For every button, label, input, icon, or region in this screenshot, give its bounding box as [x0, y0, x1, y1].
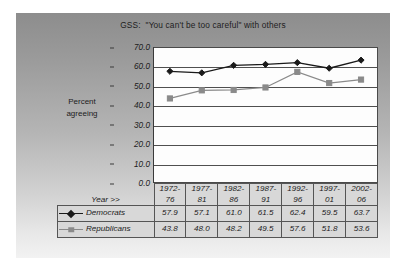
- year-row-label: Year >>: [58, 184, 155, 206]
- data-point-marker: [358, 57, 364, 63]
- table-column-header: 1972- 76: [154, 184, 186, 206]
- data-point-marker: [231, 87, 236, 92]
- table-column-header: 1997- 01: [314, 184, 346, 206]
- data-table-wrapper: Year >>1972- 761977- 811982- 861987- 911…: [57, 183, 378, 238]
- data-point-marker: [326, 65, 332, 71]
- y-axis-tick-label: 50.0: [114, 81, 150, 90]
- data-point-marker: [199, 88, 204, 93]
- y-axis-tick-mark: [110, 164, 114, 165]
- data-point-marker: [231, 62, 237, 68]
- y-axis-tick-mark: [110, 144, 114, 145]
- table-cell-value: 48.0: [186, 222, 218, 238]
- y-axis-tick-label: 30.0: [114, 120, 150, 129]
- table-cell-value: 59.5: [314, 206, 346, 222]
- y-axis-tick-label: 40.0: [114, 101, 150, 110]
- data-point-marker: [358, 77, 363, 82]
- table-cell-value: 61.5: [250, 206, 282, 222]
- data-point-marker: [263, 85, 268, 90]
- data-point-marker: [199, 70, 205, 76]
- table-column-header: 1982- 86: [218, 184, 250, 206]
- table-cell-value: 57.1: [186, 206, 218, 222]
- data-point-marker: [167, 68, 173, 74]
- table-column-header: 2002- 06: [346, 184, 378, 206]
- legend-item-democrats[interactable]: Democrats: [58, 206, 155, 222]
- data-table: Year >>1972- 761977- 811982- 861987- 911…: [57, 183, 378, 238]
- data-point-marker: [295, 69, 300, 74]
- legend-label: Democrats: [84, 208, 125, 219]
- table-column-header: 1977- 81: [186, 184, 218, 206]
- table-cell-value: 63.7: [346, 206, 378, 222]
- y-axis-tick-label: 60.0: [114, 62, 150, 71]
- data-point-marker: [167, 96, 172, 101]
- series-lines: [154, 48, 377, 183]
- diamond-marker-icon: [58, 209, 84, 219]
- data-point-marker: [262, 61, 268, 67]
- legend-item-republicans[interactable]: Republicans: [58, 222, 155, 238]
- table-cell-value: 57.9: [154, 206, 186, 222]
- chart-screenshot: GSS: "You can't be too careful" with oth…: [0, 0, 403, 273]
- plot-wrapper: [153, 47, 378, 183]
- table-cell-value: 51.8: [314, 222, 346, 238]
- table-column-header: 1992- 96: [282, 184, 314, 206]
- table-column-header: 1987- 91: [250, 184, 282, 206]
- y-axis-tick-labels: 0.010.020.030.040.050.060.070.0: [110, 47, 150, 183]
- y-axis-tick-mark: [110, 47, 114, 48]
- table-cell-value: 61.0: [218, 206, 250, 222]
- table-cell-value: 48.2: [218, 222, 250, 238]
- table-header-row: Year >>1972- 761977- 811982- 861987- 911…: [58, 184, 378, 206]
- table-cell-value: 62.4: [282, 206, 314, 222]
- chart-title: GSS: "You can't be too careful" with oth…: [16, 20, 390, 30]
- table-cell-value: 49.5: [250, 222, 282, 238]
- data-point-marker: [327, 80, 332, 85]
- data-point-marker: [294, 60, 300, 66]
- y-axis-tick-mark: [110, 66, 114, 67]
- y-axis-tick-label: 10.0: [114, 159, 150, 168]
- y-axis-tick-label: 20.0: [114, 140, 150, 149]
- y-axis-line: [153, 47, 154, 183]
- square-marker-icon: [58, 225, 84, 235]
- table-cell-value: 43.8: [154, 222, 186, 238]
- table-cell-value: 57.6: [282, 222, 314, 238]
- table-cell-value: 53.6: [346, 222, 378, 238]
- plot-area: [153, 47, 378, 183]
- y-axis-tick-mark: [110, 86, 114, 87]
- table-row: Democrats57.957.161.061.562.459.563.7: [58, 206, 378, 222]
- table-row: Republicans43.848.048.249.557.651.853.6: [58, 222, 378, 238]
- y-axis-tick-mark: [110, 125, 114, 126]
- y-axis-tick-label: 70.0: [114, 43, 150, 52]
- y-axis-tick-mark: [110, 105, 114, 106]
- legend-label: Republicans: [84, 224, 131, 235]
